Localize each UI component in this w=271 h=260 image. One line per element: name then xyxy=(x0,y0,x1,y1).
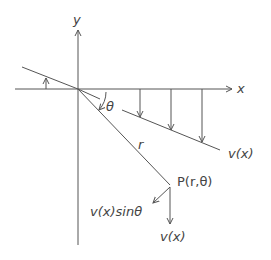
component-arrow xyxy=(153,187,170,203)
diagram: y x θ r v(x) P(r,θ) v(x)sinθ v(x) xyxy=(0,0,271,260)
theta-ray xyxy=(78,89,100,99)
point-label: P(r,θ) xyxy=(177,175,212,188)
theta-arc xyxy=(99,92,106,110)
diagram-lines xyxy=(0,0,271,260)
vertical-force-label: v(x) xyxy=(160,230,186,243)
y-axis-label: y xyxy=(73,13,81,26)
inclined-line xyxy=(22,67,78,89)
r-label: r xyxy=(138,138,143,151)
load-line-label: v(x) xyxy=(228,147,254,160)
x-axis-label: x xyxy=(237,82,245,95)
component-label: v(x)sinθ xyxy=(90,205,142,218)
theta-label: θ xyxy=(106,100,114,113)
r-line xyxy=(78,89,170,185)
